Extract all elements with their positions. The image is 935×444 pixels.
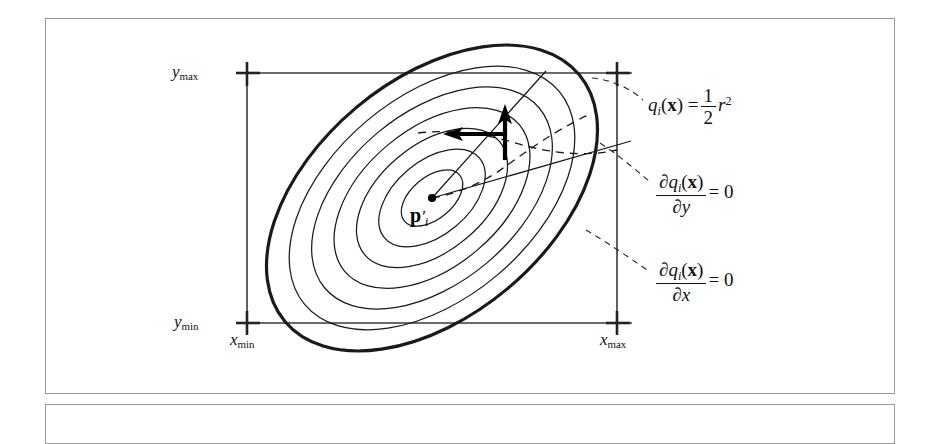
- axis-label-xmax-var: x: [600, 330, 608, 349]
- callout-q-fraction: 12: [701, 86, 717, 127]
- callout-dqdy-fn: q: [668, 171, 678, 192]
- callout-q-equals: =: [688, 94, 699, 115]
- callout-dqdy-partial: ∂: [659, 171, 668, 192]
- callout-q-fn: q: [648, 94, 658, 115]
- callout-dqdy-paren-close: ): [697, 171, 703, 192]
- callout-q-frac-den: 2: [701, 107, 717, 127]
- axis-label-xmax: xmax: [600, 330, 626, 350]
- callout-dqdx-partial-den: ∂: [672, 284, 681, 305]
- callout-q-rhs-exp: 2: [725, 94, 731, 108]
- callout-dqdy-num: ∂qi(x): [656, 172, 706, 196]
- axis-label-ymin: ymin: [174, 312, 198, 332]
- axis-label-ymax-sub: max: [180, 70, 199, 82]
- callout-dqdx-arg: x: [688, 259, 698, 280]
- callout-dqdx-equals: =: [708, 269, 719, 290]
- callout-dqdy-equals: =: [708, 181, 719, 202]
- callout-dqdx-fraction: ∂qi(x)∂x: [656, 260, 706, 304]
- locus-dashed-lower: [432, 114, 590, 198]
- callout-dqdy-partial-den: ∂: [672, 196, 681, 217]
- axis-label-xmin: xmin: [230, 330, 254, 350]
- callout-dqdx-den: ∂x: [656, 284, 706, 304]
- axis-label-ymin-sub: min: [182, 320, 199, 332]
- callout-dqdy-fraction: ∂qi(x)∂y: [656, 172, 706, 216]
- center-point-sub: i: [425, 215, 429, 229]
- axis-label-xmax-sub: max: [608, 338, 627, 350]
- callout-dqdy-den: ∂y: [656, 196, 706, 216]
- callout-dq-dx-zero: ∂qi(x)∂x= 0: [654, 260, 733, 304]
- callout-dqdx-num: ∂qi(x): [656, 260, 706, 284]
- axis-label-xmin-sub: min: [238, 338, 255, 350]
- callout-dqdx-value: 0: [724, 269, 734, 290]
- callout-q-paren-close: ): [677, 94, 683, 115]
- leader-dq-dx-zero: [586, 230, 650, 272]
- contour-ring-7-outer: [209, 0, 655, 412]
- callout-dqdx-partial: ∂: [659, 259, 668, 280]
- center-point-label: p′i: [410, 204, 428, 230]
- axis-label-ymin-var: y: [174, 312, 182, 331]
- callout-dqdy-wrt: y: [682, 196, 690, 217]
- callout-dqdy-arg: x: [688, 171, 698, 192]
- axis-label-xmin-var: x: [230, 330, 238, 349]
- axis-label-ymax: ymax: [172, 62, 198, 82]
- contour-family: [209, 0, 655, 412]
- callout-dq-dy-zero: ∂qi(x)∂y= 0: [654, 172, 733, 216]
- callout-dqdx-fn: q: [668, 259, 678, 280]
- center-point-marker: [428, 194, 436, 202]
- callout-dqdx-paren-close: ): [697, 259, 703, 280]
- axis-label-ymax-var: y: [172, 62, 180, 81]
- center-point-symbol: p: [410, 204, 421, 226]
- callout-dqdy-value: 0: [724, 181, 734, 202]
- callout-q-arg: x: [667, 94, 677, 115]
- callout-q-frac-num: 1: [701, 86, 717, 107]
- callout-q-definition: qi(x) =12r2: [648, 86, 732, 127]
- callout-dqdx-wrt: x: [682, 284, 690, 305]
- leader-dq-dy-zero: [600, 143, 650, 182]
